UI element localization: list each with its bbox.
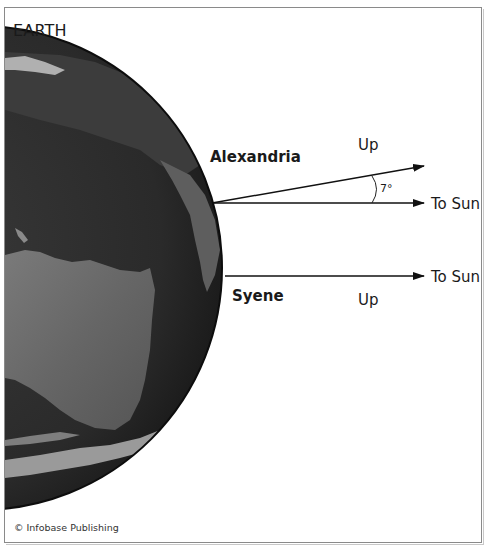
angle-arc [372,176,377,203]
globe [0,26,222,510]
syene-sun-label: To Sun [431,268,480,286]
syene-up-label: Up [358,291,379,309]
diagram-title: EARTH [13,21,67,40]
alexandria-up-label: Up [358,136,379,154]
alexandria-sun-label: To Sun [431,195,480,213]
copyright-credit: © Infobase Publishing [14,522,119,533]
syene-label: Syene [232,287,284,305]
earth-diagram [0,0,489,549]
angle-label: 7° [380,182,393,195]
alexandria-label: Alexandria [210,148,301,166]
